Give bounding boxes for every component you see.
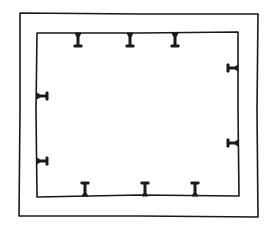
bracket-marker-icon xyxy=(191,182,199,196)
bracket-marker-icon xyxy=(141,182,149,196)
bracket-marker-icon xyxy=(37,92,48,100)
bracket-marker-icon xyxy=(81,182,89,196)
outer-frame xyxy=(19,13,258,217)
bracket-marker-icon xyxy=(171,33,179,47)
inner-rect xyxy=(36,32,239,197)
bracket-marker-icon xyxy=(227,139,238,147)
bracket-marker-icon xyxy=(37,157,48,165)
sketch-canvas xyxy=(0,0,270,234)
bracket-marker-icon xyxy=(74,33,82,47)
bracket-marker-icon xyxy=(126,33,134,47)
bracket-marker-icon xyxy=(227,64,238,72)
